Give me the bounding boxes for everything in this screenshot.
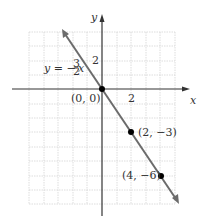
y-tick-label: 2: [92, 54, 99, 67]
point-2-neg3: [128, 129, 134, 135]
equation-var: x: [78, 62, 85, 75]
x-axis-label: x: [190, 94, 197, 107]
point-label-2-neg3: (2, −3): [138, 126, 177, 139]
point-label-origin: (0, 0): [71, 92, 101, 105]
point-label-4-neg6: (4, −6): [122, 169, 161, 182]
equation-label: y = − 3 2 x: [43, 57, 85, 78]
x-tick-label: 2: [128, 92, 135, 105]
y-axis-label: y: [90, 11, 98, 24]
coordinate-graph: x y 2 2 y = − 3 2 x (0, 0) (2, −3) (4, −…: [0, 0, 203, 224]
y-axis: [100, 14, 105, 216]
equation-text: y = −: [43, 62, 76, 75]
